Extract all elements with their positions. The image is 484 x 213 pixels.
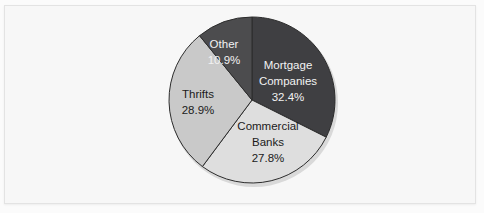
pie-chart-figure: Mortgage Companies 32.4% Commercial Bank… xyxy=(0,0,484,213)
slice-value-mortgage-companies: 32.4% xyxy=(272,91,305,103)
slice-label-commercial-banks-line1: Commercial xyxy=(237,120,298,132)
slice-value-thrifts: 28.9% xyxy=(182,104,215,116)
slice-value-other: 10.9% xyxy=(208,54,241,66)
slice-label-mortgage-companies-line2: Companies xyxy=(259,75,317,87)
slice-label-thrifts: Thrifts xyxy=(182,88,214,100)
slice-value-commercial-banks: 27.8% xyxy=(252,152,285,164)
slice-label-commercial-banks-line2: Banks xyxy=(252,136,284,148)
pie-chart-svg: Mortgage Companies 32.4% Commercial Bank… xyxy=(0,0,484,213)
slice-label-other: Other xyxy=(210,38,239,50)
chart-plot-area: Mortgage Companies 32.4% Commercial Bank… xyxy=(0,0,484,213)
slice-label-mortgage-companies-line1: Mortgage xyxy=(264,59,313,71)
